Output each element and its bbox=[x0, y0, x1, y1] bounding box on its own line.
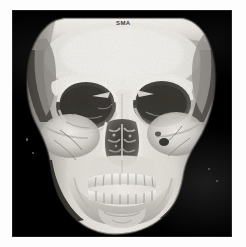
noise-speck bbox=[208, 168, 210, 170]
noise-speck bbox=[216, 180, 218, 182]
noise-speck bbox=[32, 152, 34, 154]
ct-image-viewport[interactable]: SMA bbox=[12, 10, 232, 237]
screenshot-root: SMA bbox=[0, 0, 246, 247]
skull-volume-render bbox=[12, 10, 232, 237]
noise-speck bbox=[26, 138, 28, 141]
